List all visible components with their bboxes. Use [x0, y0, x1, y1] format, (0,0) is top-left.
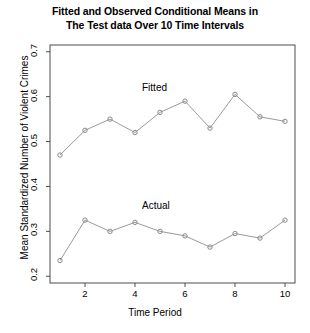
x-tick-label: 2 [73, 288, 97, 299]
x-tick-label: 4 [123, 288, 147, 299]
plot-canvas [0, 0, 310, 333]
chart-title-line-2: The Test data Over 10 Time Intervals [0, 18, 310, 32]
series-label-actual: Actual [142, 200, 170, 211]
series-label-fitted: Fitted [142, 82, 167, 93]
y-tick-label: 0.6 [28, 84, 39, 106]
x-tick-label: 6 [173, 288, 197, 299]
series-line-fitted [60, 94, 285, 155]
x-axis-label: Time Period [0, 307, 310, 318]
chart-figure: Fitted and Observed Conditional Means in… [0, 0, 310, 333]
x-tick-label: 8 [223, 288, 247, 299]
x-tick-label: 10 [273, 288, 297, 299]
y-tick-label: 0.5 [28, 129, 39, 151]
series-line-actual [60, 220, 285, 260]
y-tick-label: 0.3 [28, 219, 39, 241]
plot-box [50, 45, 295, 283]
y-tick-label: 0.4 [28, 174, 39, 196]
y-tick-label: 0.2 [28, 264, 39, 286]
chart-title-line-1: Fitted and Observed Conditional Means in [0, 4, 310, 18]
chart-title: Fitted and Observed Conditional Means in… [0, 4, 310, 32]
y-tick-label: 0.7 [28, 39, 39, 61]
